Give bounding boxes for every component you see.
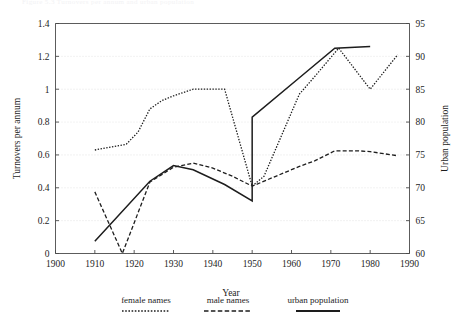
y2-tick-label: 95: [416, 19, 426, 29]
x-tick-label: 1910: [85, 259, 104, 269]
y2-tick-label: 70: [416, 183, 426, 193]
series-line-urban-population: [95, 47, 370, 242]
x-tick-label: 1950: [243, 259, 262, 269]
chart-figure: Figure 5.3 Turnovers per annum and urban…: [0, 0, 463, 327]
x-tick-label: 1940: [203, 259, 222, 269]
x-tick-label: 1980: [361, 259, 380, 269]
y-tick-label: 0.6: [38, 150, 50, 160]
legend-label-female-names: female names: [121, 295, 171, 305]
chart-legend: female namesmale namesurban population: [121, 295, 349, 311]
y2-tick-label: 85: [416, 85, 426, 95]
x-tick-label: 1920: [125, 259, 144, 269]
x-tick-label: 1970: [321, 259, 340, 269]
axis-titles: Turnovers per annum Urban population Yea…: [12, 97, 450, 298]
y2-tick-label: 60: [416, 249, 426, 259]
y-tick-label: 0.2: [38, 216, 50, 226]
axis-ticks: [56, 24, 410, 254]
y-tick-label: 1.2: [38, 52, 50, 62]
y2-axis-title: Urban population: [440, 105, 450, 172]
x-axis-tick-labels: 1900191019201930194019501960197019801990: [46, 259, 419, 269]
legend-label-urban-population: urban population: [287, 295, 349, 305]
y-tick-label: 0.4: [38, 183, 50, 193]
y-tick-label: 1.4: [38, 19, 50, 29]
y-axis-tick-labels: 00.20.40.60.811.21.4: [38, 19, 50, 259]
faint-figure-caption: Figure 5.3 Turnovers per annum and urban…: [22, 0, 194, 6]
y2-tick-label: 65: [416, 216, 426, 226]
y2-tick-label: 75: [416, 150, 426, 160]
y2-tick-label: 80: [416, 117, 426, 127]
axes: [56, 24, 410, 254]
data-series: [95, 47, 398, 254]
legend-label-male-names: male names: [207, 295, 250, 305]
y-tick-label: 0: [45, 249, 50, 259]
y2-tick-label: 90: [416, 52, 426, 62]
line-chart: 1900191019201930194019501960197019801990…: [0, 0, 463, 327]
series-line-male-names: [95, 151, 398, 254]
x-tick-label: 1960: [282, 259, 301, 269]
y-tick-label: 1: [45, 85, 50, 95]
gridlines: [56, 24, 410, 221]
y2-axis-tick-labels: 6065707580859095: [416, 19, 426, 259]
x-tick-label: 1990: [400, 259, 419, 269]
series-line-female-names: [95, 48, 398, 186]
x-tick-label: 1930: [164, 259, 183, 269]
y-axis-title: Turnovers per annum: [12, 97, 22, 179]
y-tick-label: 0.8: [38, 117, 50, 127]
x-tick-label: 1900: [46, 259, 65, 269]
